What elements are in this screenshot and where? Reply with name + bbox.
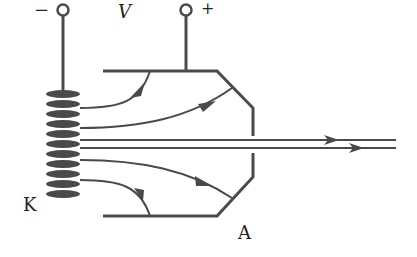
electron-path-4 [80,180,150,216]
electron-path-2 [80,88,232,128]
cathode-coil [46,90,80,198]
positive-terminal [181,5,192,72]
arrowheads [130,82,216,201]
negative-terminal-label: − [34,0,49,20]
cathode-label: K [23,194,37,215]
anode [103,71,253,216]
arrow-icon [134,188,144,201]
electron-gun-diagram: − V + [0,0,417,257]
voltage-label: V [118,1,133,22]
arrow-icon [198,101,216,112]
positive-terminal-label: + [201,0,214,18]
negative-terminal [58,5,69,91]
electron-paths [80,71,232,216]
arrow-icon [130,82,145,98]
electron-path-3 [80,160,232,198]
electron-beam [80,140,396,148]
beam-arrows [324,135,364,153]
anode-label: A [237,222,252,243]
arrow-icon [195,176,212,186]
